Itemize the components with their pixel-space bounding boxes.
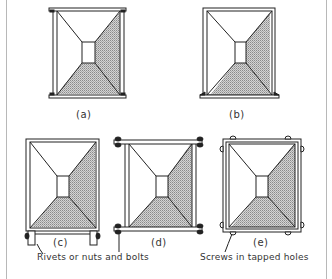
panel-b-drawing — [200, 8, 279, 98]
rivets-annotation: Rivets or nuts and bolts — [37, 252, 149, 262]
panel-e-drawing — [220, 136, 304, 252]
panel-c-label: (c) — [53, 237, 68, 248]
panel-d-drawing — [114, 137, 203, 252]
panel-a-label: (a) — [76, 109, 91, 120]
panel-b-label: (b) — [229, 109, 245, 120]
panel-e-label: (e) — [253, 237, 268, 248]
screws-annotation: Screws in tapped holes — [200, 252, 309, 262]
panel-a-drawing — [49, 8, 126, 98]
panel-d-label: (d) — [151, 237, 167, 248]
